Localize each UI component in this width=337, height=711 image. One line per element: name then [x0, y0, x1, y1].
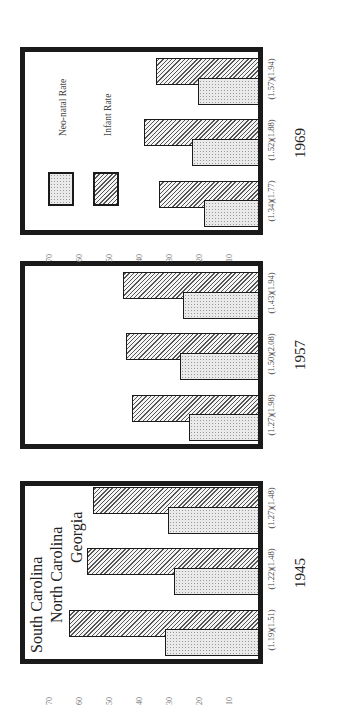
- y-tick-label: 10: [225, 691, 234, 711]
- state-label-south-carolina: South Carolina: [28, 557, 46, 653]
- y-tick-label: 60: [75, 691, 84, 711]
- y-tick-label: 40: [135, 691, 144, 711]
- state-label-north-carolina: North Carolina: [48, 527, 66, 623]
- legend-label-neonatal: Neo-natal Rate: [58, 79, 68, 136]
- ratio-label: (1.22)(1.48): [266, 539, 276, 599]
- bar-neonatal-1969-1: [192, 139, 258, 166]
- y-tick-label: 10: [225, 248, 234, 268]
- bar-neonatal-1945-0: [165, 629, 258, 656]
- year-label-1969: 1969: [292, 113, 309, 173]
- y-tick-label: 70: [45, 691, 54, 711]
- ratio-label: (1.19)(1.51): [266, 600, 276, 660]
- legend-label-infant: Infant Rate: [103, 94, 113, 136]
- panel-1969: [20, 47, 263, 235]
- y-tick-label: 30: [165, 691, 174, 711]
- ratio-label: (1.34)(1.77): [266, 171, 276, 231]
- y-tick-label: 20: [195, 691, 204, 711]
- y-tick-label: 70: [45, 248, 54, 268]
- bar-neonatal-1957-1: [180, 353, 258, 380]
- legend-swatch-neonatal: [48, 172, 74, 206]
- legend-swatch-infant: [93, 172, 119, 206]
- y-tick-label: 30: [165, 248, 174, 268]
- state-label-georgia: Georgia: [68, 512, 86, 563]
- year-label-1945: 1945: [292, 543, 309, 603]
- y-tick-label: 60: [75, 248, 84, 268]
- year-label-1957: 1957: [292, 325, 309, 385]
- chart-figure: 1945 1957 1969 South Carolina North Caro…: [0, 0, 337, 711]
- y-tick-label: 50: [105, 248, 114, 268]
- panel-1957: [20, 261, 263, 449]
- bar-neonatal-1945-2: [168, 507, 258, 534]
- bar-neonatal-1945-1: [174, 568, 258, 595]
- ratio-label: (1.50)(2.08): [266, 324, 276, 384]
- ratio-label: (1.43)(1.94): [266, 263, 276, 323]
- bar-neonatal-1957-2: [183, 292, 258, 319]
- y-tick-label: 50: [105, 691, 114, 711]
- bar-neonatal-1957-0: [189, 414, 258, 441]
- ratio-label: (1.57)(1.94): [266, 49, 276, 109]
- ratio-label: (1.52)(1.88): [266, 110, 276, 170]
- y-tick-label: 40: [135, 248, 144, 268]
- ratio-label: (1.27)(1.48): [266, 478, 276, 538]
- y-tick-label: 20: [195, 248, 204, 268]
- bar-neonatal-1969-2: [198, 78, 258, 105]
- ratio-label: (1.27)(1.98): [266, 385, 276, 445]
- bar-neonatal-1969-0: [204, 200, 258, 227]
